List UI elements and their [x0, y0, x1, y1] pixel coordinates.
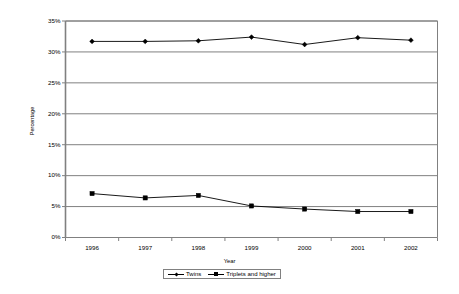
legend-label-triplets-and-higher: Triplets and higher: [226, 271, 275, 278]
data-point-twins-1997[interactable]: [143, 39, 148, 44]
data-point-triplets-and-higher-1998[interactable]: [196, 193, 200, 197]
data-point-triplets-and-higher-2001[interactable]: [356, 209, 360, 213]
data-point-twins-1998[interactable]: [196, 38, 201, 43]
data-point-triplets-and-higher-1996[interactable]: [90, 191, 94, 195]
data-point-twins-2001[interactable]: [355, 35, 360, 40]
data-point-twins-1999[interactable]: [249, 35, 254, 40]
x-axis-title: Year: [0, 258, 459, 264]
chart-container: Percentage 0%5%10%15%20%25%30%35% 199619…: [0, 0, 459, 294]
legend-marker-diamond-icon: [168, 271, 184, 278]
legend-item-triplets-and-higher[interactable]: Triplets and higher: [208, 271, 275, 278]
x-tick-label-2000: 2000: [285, 244, 325, 251]
data-point-triplets-and-higher-1997[interactable]: [143, 196, 147, 200]
x-tick-label-2001: 2001: [338, 244, 378, 251]
data-point-twins-2002[interactable]: [409, 38, 414, 43]
data-point-triplets-and-higher-1999[interactable]: [249, 204, 253, 208]
data-point-twins-1996[interactable]: [90, 39, 95, 44]
chart-legend: Twins Triplets and higher: [163, 269, 281, 279]
x-tick-label-1998: 1998: [178, 244, 218, 251]
data-point-triplets-and-higher-2000[interactable]: [303, 207, 307, 211]
x-tick-label-2002: 2002: [391, 244, 431, 251]
series-line-triplets-and-higher: [92, 194, 411, 212]
data-point-twins-2000[interactable]: [302, 42, 307, 47]
legend-marker-square-icon: [208, 271, 224, 278]
x-tick-label-1997: 1997: [125, 244, 165, 251]
data-point-triplets-and-higher-2002[interactable]: [409, 209, 413, 213]
x-tick-label-1996: 1996: [72, 244, 112, 251]
x-tick-label-1999: 1999: [232, 244, 272, 251]
legend-item-twins[interactable]: Twins: [168, 271, 201, 278]
legend-label-twins: Twins: [186, 271, 201, 278]
